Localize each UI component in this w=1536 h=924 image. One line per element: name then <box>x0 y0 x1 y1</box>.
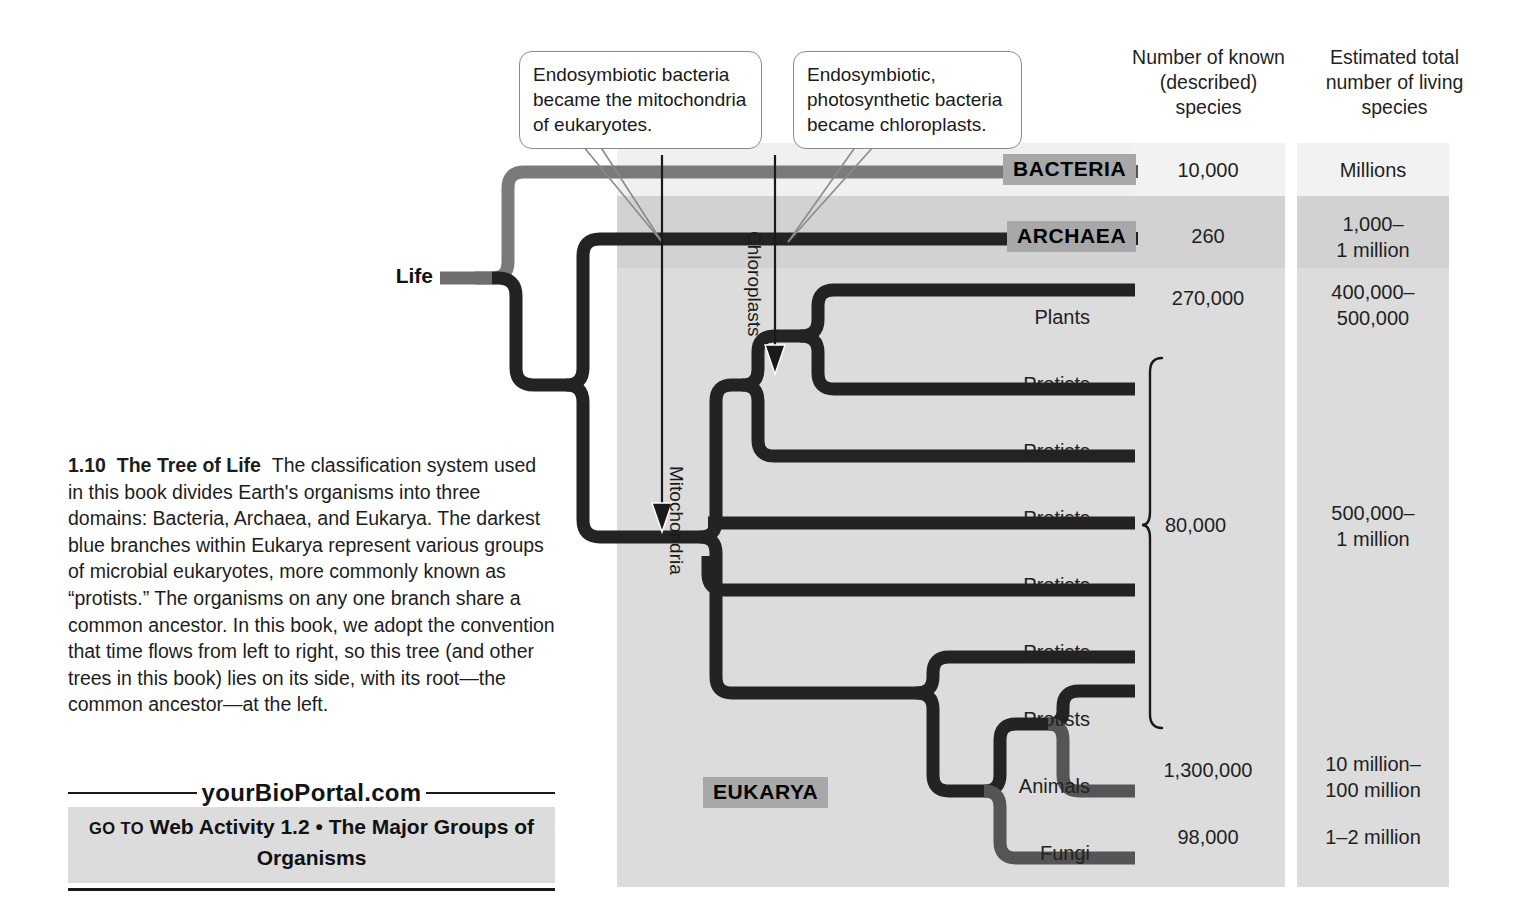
callout-chloroplasts: Endosymbiotic, photosynthetic bacteria b… <box>793 51 1022 149</box>
mitochondria-arrow-label: Mitochondria <box>665 466 687 575</box>
callout-mitochondria: Endosymbiotic bacteria became the mitoch… <box>519 51 762 149</box>
estimated-species-protists: 500,000– 1 million <box>1297 500 1449 552</box>
estimated-species-archaea: 1,000– 1 million <box>1297 211 1449 263</box>
bioportal-underline <box>68 888 555 891</box>
estimated-species-plants: 400,000– 500,000 <box>1297 279 1449 331</box>
tip-label-animals: Animals <box>938 775 1090 798</box>
tip-label-fungi: Fungi <box>938 842 1090 865</box>
figure-caption: 1.10 The Tree of Life The classification… <box>68 452 555 718</box>
bioportal-brand[interactable]: yourBioPortal.com <box>197 779 427 807</box>
known-species-plants: 270,000 <box>1131 285 1285 311</box>
bioportal-goto-label: GO TO <box>89 819 144 837</box>
estimated-species-bacteria: Millions <box>1297 157 1449 183</box>
known-species-animals: 1,300,000 <box>1131 757 1285 783</box>
tip-label-protists-1: Protists <box>938 373 1090 396</box>
tip-label-protists-5: Protists <box>938 641 1090 664</box>
chloroplasts-arrow-label: Chloroplasts <box>743 231 765 337</box>
tip-label-plants: Plants <box>938 306 1090 329</box>
estimated-species-fungi: 1–2 million <box>1297 824 1449 850</box>
domain-badge-archaea: ARCHAEA <box>1007 221 1136 252</box>
figure-caption-text: The classification system used in this b… <box>68 454 555 715</box>
estimated-species-animals: 10 million– 100 million <box>1297 751 1449 803</box>
figure-number: 1.10 <box>68 454 106 476</box>
tip-label-protists-4: Protists <box>938 574 1090 597</box>
known-species-bacteria: 10,000 <box>1131 157 1285 183</box>
tip-label-protists-3: Protists <box>938 507 1090 530</box>
bioportal-rule-left <box>68 792 197 795</box>
known-species-fungi: 98,000 <box>1131 824 1285 850</box>
tip-label-protists-2: Protists <box>938 440 1090 463</box>
bioportal-brand-row: yourBioPortal.com <box>68 779 555 807</box>
bioportal-rule-right <box>426 792 555 795</box>
root-label: Life <box>330 264 433 288</box>
domain-badge-eukarya: EUKARYA <box>703 777 828 808</box>
known-species-archaea: 260 <box>1131 223 1285 249</box>
bioportal-box: yourBioPortal.com GO TO Web Activity 1.2… <box>68 779 555 891</box>
bioportal-activity-label: Web Activity 1.2 • The Major Groups of O… <box>150 815 534 869</box>
figure-title: The Tree of Life <box>117 454 261 476</box>
known-species-protists: 80,000 <box>1165 512 1305 538</box>
bioportal-activity-row[interactable]: GO TO Web Activity 1.2 • The Major Group… <box>68 807 555 883</box>
tip-label-protists-6: Protists <box>938 708 1090 731</box>
domain-badge-bacteria: BACTERIA <box>1003 154 1136 185</box>
figure-page: Number of known (described) species Esti… <box>0 0 1536 924</box>
